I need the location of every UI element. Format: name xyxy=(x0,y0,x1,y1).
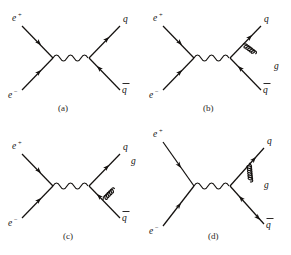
panel-b-caption: (b) xyxy=(203,103,214,113)
panel-d-positron-label: e xyxy=(153,129,157,139)
panel-c-quark-label: q xyxy=(123,142,128,152)
panel-a-electron-charge: − xyxy=(14,88,18,95)
panel-b-positron-charge: + xyxy=(159,11,163,18)
diagram-canvas: e + e − q q (a) e xyxy=(0,0,291,255)
panel-a-quark-label: q xyxy=(123,14,128,24)
panel-c-positron-charge: + xyxy=(18,139,22,146)
panel-a-positron-charge: + xyxy=(18,11,22,18)
panel-a-electron-line xyxy=(22,58,53,90)
panel-a-positron-label: e xyxy=(12,13,16,23)
panel-d-electron-charge: − xyxy=(155,224,159,231)
panel-b-quark-label: q xyxy=(264,14,269,24)
panel-b-gluon-line xyxy=(242,42,257,57)
panel-c: e + e − q q g (c) xyxy=(8,139,136,241)
panel-c-gluon-label: g xyxy=(131,156,136,166)
panel-c-gluon-line xyxy=(101,187,117,201)
panel-a-caption: (a) xyxy=(58,103,68,113)
panel-a-antiquark-line xyxy=(89,58,120,90)
panel-a-electron-label: e xyxy=(8,90,12,100)
panel-b-electron-charge: − xyxy=(155,88,159,95)
panel-c-positron-label: e xyxy=(12,141,16,151)
panel-b: e + e − q q g (b) xyxy=(149,11,279,113)
panel-c-photon-propagator xyxy=(53,183,88,189)
panel-d: e + e − q q g (d) xyxy=(149,127,274,241)
panel-d-electron-label: e xyxy=(149,226,153,236)
panel-c-antiquark-label: q xyxy=(122,213,127,223)
panel-c-caption: (c) xyxy=(63,231,73,241)
panel-c-electron-label: e xyxy=(8,218,12,228)
panel-c-quark-line xyxy=(89,154,120,186)
panel-b-photon-propagator xyxy=(194,55,229,61)
panel-a: e + e − q q (a) xyxy=(8,11,130,113)
panel-d-gluon-label: g xyxy=(264,180,269,190)
panel-c-electron-charge: − xyxy=(14,216,18,223)
panel-a-quark-line xyxy=(89,26,120,58)
panel-d-quark-label: q xyxy=(267,136,272,146)
panel-b-electron-label: e xyxy=(149,90,153,100)
panel-b-gluon-label: g xyxy=(274,61,279,71)
panel-d-positron-charge: + xyxy=(159,127,163,134)
panel-a-photon-propagator xyxy=(53,55,88,61)
panel-b-antiquark-line xyxy=(230,58,261,90)
feynman-diagram-figure: e + e − q q (a) e xyxy=(0,0,291,255)
panel-d-antiquark-label: q xyxy=(266,220,271,230)
panel-d-gluon-line xyxy=(247,163,253,182)
panel-b-antiquark-label: q xyxy=(263,85,268,95)
panel-d-photon-propagator xyxy=(194,183,229,189)
panel-c-electron-line xyxy=(22,186,53,218)
panel-b-electron-line xyxy=(163,58,194,90)
panel-b-positron-label: e xyxy=(153,13,157,23)
panel-d-caption: (d) xyxy=(208,231,219,241)
panel-c-antiquark-line xyxy=(89,186,120,218)
panel-a-antiquark-label: q xyxy=(122,85,127,95)
